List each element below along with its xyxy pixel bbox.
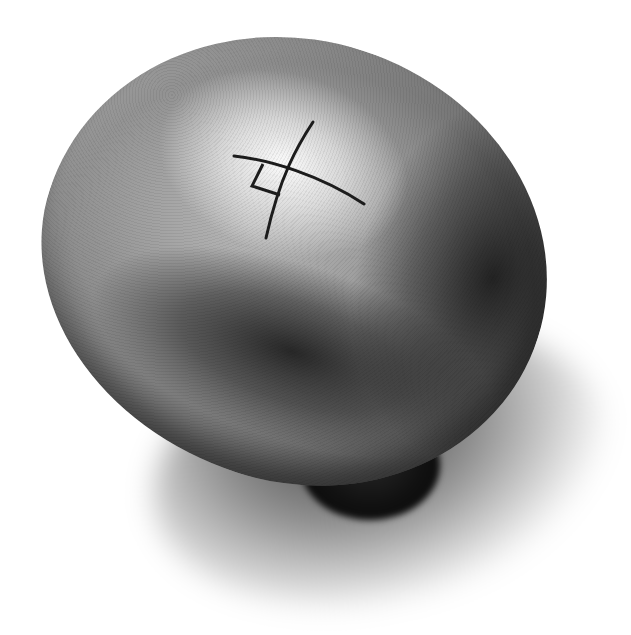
right-angle-symbol-icon [0, 0, 619, 622]
knob-scene [0, 0, 619, 622]
